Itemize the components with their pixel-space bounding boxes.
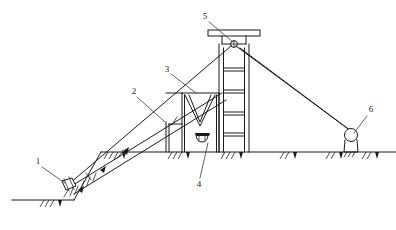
ground-hatch-lower: [40, 200, 62, 207]
leader-3: [171, 74, 196, 93]
tower-rungs: [224, 68, 245, 136]
hopper-inner-wall: [189, 95, 211, 122]
callout-label-1: 1: [36, 156, 41, 166]
deflection-roller-group: [344, 129, 358, 158]
left-cable: [69, 46, 231, 184]
callout-leaders: [42, 22, 367, 183]
anchor-stake: [93, 173, 96, 181]
trough-rim: [195, 133, 210, 136]
ramp-cross-tie: [118, 150, 123, 158]
callout-labels: 1 2 3 4 5 6: [36, 11, 374, 189]
ground-hatch-main: [104, 152, 379, 159]
hatch-tick: [168, 152, 190, 159]
anchor-block-group: [62, 147, 129, 197]
leader-1: [42, 167, 65, 183]
v-hopper-group: [182, 93, 219, 126]
tower-cap-platform: [208, 30, 260, 36]
hatch-tick: [221, 152, 243, 159]
discharge-trough-group: [195, 133, 210, 142]
anchor-stake: [70, 188, 73, 196]
right-cable-lower: [240, 48, 355, 134]
hatch-tick: [362, 152, 379, 159]
hatch-tick: [104, 152, 126, 159]
roller-base-hatch: [344, 152, 355, 157]
leader-4: [200, 143, 208, 178]
callout-label-3: 3: [165, 64, 170, 74]
left-stay-cable-group: [69, 46, 231, 184]
callout-label-2: 2: [132, 86, 137, 96]
anchor-stake: [64, 190, 68, 197]
engineering-diagram: 1 2 3 4 5 6: [0, 0, 396, 230]
hatch-tick: [326, 152, 343, 159]
callout-label-6: 6: [369, 104, 374, 114]
leader-6: [354, 116, 367, 133]
headframe-tower-group: [219, 44, 249, 152]
diagram-root: 1 2 3 4 5 6: [0, 0, 396, 230]
callout-label-4: 4: [197, 179, 202, 189]
leader-2: [137, 97, 165, 122]
right-stay-cables-group: [236, 46, 355, 134]
hatch-tick: [280, 152, 297, 159]
callout-label-5: 5: [203, 11, 208, 21]
